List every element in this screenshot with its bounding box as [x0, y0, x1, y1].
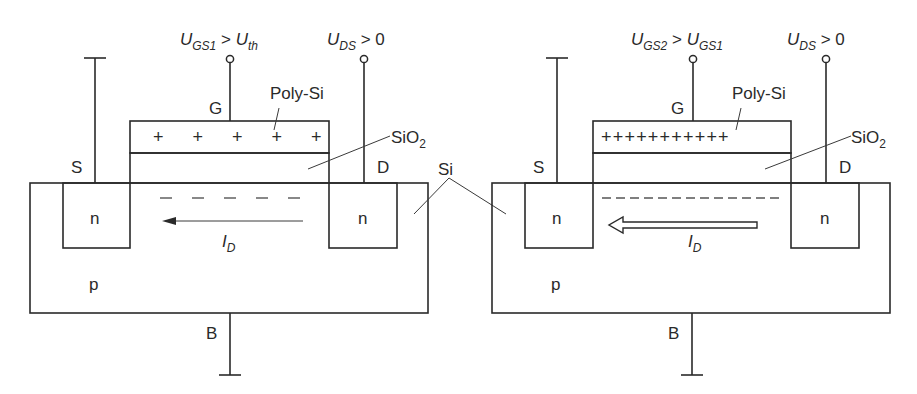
- right-current-arrow-icon: [609, 217, 757, 233]
- right-gate-label: G: [671, 99, 684, 118]
- right-device: UGS2 > UGS1 UDS > 0 G Poly-Si SiO2 S D n…: [492, 30, 890, 375]
- left-substrate-p-label: p: [89, 275, 98, 294]
- right-oxide: [593, 153, 791, 183]
- right-bulk-label: B: [668, 324, 679, 343]
- left-gate-charges: + + + + +: [153, 127, 334, 147]
- left-drain-n-label: n: [358, 209, 367, 228]
- left-drain-voltage-label: UDS > 0: [327, 30, 385, 53]
- left-oxide-label: SiO2: [391, 128, 426, 151]
- right-gate-voltage-label: UGS2 > UGS1: [631, 30, 723, 53]
- right-drain-n-label: n: [820, 209, 829, 228]
- left-source-n-label: n: [90, 209, 99, 228]
- right-gate-charges: +++++++++++: [601, 127, 730, 147]
- right-drain-label: D: [839, 158, 851, 177]
- mosfet-diagram: UGS1 > Uth UDS > 0 G Poly-Si SiO2 S D n …: [0, 0, 917, 394]
- right-drain-voltage-label: UDS > 0: [787, 30, 845, 53]
- si-label: Si: [438, 160, 453, 179]
- right-current-label: ID: [688, 232, 702, 255]
- right-source-n-label: n: [552, 209, 561, 228]
- left-drain-terminal-icon: [360, 55, 367, 62]
- right-drain-terminal-icon: [822, 55, 829, 62]
- right-gate-terminal-icon: [689, 55, 696, 62]
- left-gate-terminal-icon: [226, 55, 233, 62]
- right-poly-label: Poly-Si: [732, 84, 786, 103]
- left-current-label: ID: [222, 232, 236, 255]
- left-drain-label: D: [377, 158, 389, 177]
- right-oxide-label: SiO2: [851, 128, 886, 151]
- left-device: UGS1 > Uth UDS > 0 G Poly-Si SiO2 S D n …: [30, 30, 428, 375]
- left-bulk-label: B: [206, 324, 217, 343]
- right-source-label: S: [533, 158, 544, 177]
- right-poly-pointer: [736, 108, 741, 130]
- left-oxide: [130, 153, 329, 183]
- left-arrowhead-icon: [162, 217, 176, 225]
- left-poly-label: Poly-Si: [270, 84, 324, 103]
- left-source-label: S: [71, 158, 82, 177]
- left-gate-label: G: [209, 99, 222, 118]
- left-gate-voltage-label: UGS1 > Uth: [180, 30, 258, 53]
- right-substrate-p-label: p: [551, 275, 560, 294]
